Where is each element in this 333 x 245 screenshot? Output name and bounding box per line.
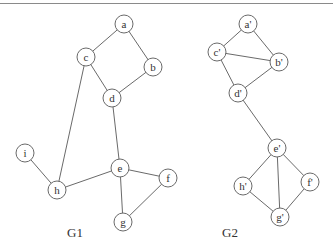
node-h': h' — [234, 177, 252, 195]
g2-edges — [217, 24, 310, 217]
node-label: h' — [239, 180, 247, 192]
node-label: f' — [307, 176, 313, 188]
node-b': b' — [270, 53, 288, 71]
node-f: f — [159, 169, 177, 187]
g1-edges — [25, 24, 168, 222]
node-label: e' — [274, 142, 281, 154]
node-e: e — [111, 159, 129, 177]
node-i: i — [16, 144, 34, 162]
node-label: d — [109, 92, 115, 104]
node-f': f' — [301, 173, 319, 191]
node-label: g' — [276, 211, 284, 223]
g2-label: G2 — [222, 225, 238, 240]
g2-nodes: a'b'c'd'e'f'g'h' — [208, 15, 319, 226]
node-label: a' — [245, 18, 252, 30]
node-a: a — [115, 15, 133, 33]
node-label: i — [23, 147, 26, 159]
node-c: c — [77, 48, 95, 66]
g1-label: G1 — [67, 225, 83, 240]
node-label: c — [84, 51, 89, 63]
node-d: d — [103, 89, 121, 107]
edge-e'-g' — [277, 148, 280, 217]
edge-c-h — [57, 57, 86, 190]
node-label: c' — [214, 46, 221, 58]
edge-h-e — [57, 168, 120, 190]
edge-d-e — [112, 98, 120, 168]
graph-g2: a'b'c'd'e'f'g'h' G2 — [208, 15, 319, 240]
node-h: h — [48, 181, 66, 199]
node-g: g — [114, 213, 132, 231]
node-label: d' — [234, 87, 242, 99]
node-b: b — [144, 58, 162, 76]
node-label: b — [150, 61, 156, 73]
node-label: h — [54, 184, 60, 196]
graph-svg: abcdefghi G1 a'b'c'd'e'f'g'h' G2 — [0, 0, 333, 245]
node-d': d' — [229, 84, 247, 102]
node-label: e — [118, 162, 123, 174]
graph-g1: abcdefghi G1 — [16, 15, 177, 240]
node-c': c' — [208, 43, 226, 61]
node-g': g' — [271, 208, 289, 226]
node-a': a' — [239, 15, 257, 33]
node-label: b' — [275, 56, 283, 68]
edge-d'-e' — [238, 93, 277, 148]
node-e': e' — [268, 139, 286, 157]
node-label: g — [120, 216, 126, 228]
node-label: f — [166, 172, 170, 184]
node-label: a — [122, 18, 127, 30]
diagram-canvas: abcdefghi G1 a'b'c'd'e'f'g'h' G2 — [0, 0, 333, 245]
